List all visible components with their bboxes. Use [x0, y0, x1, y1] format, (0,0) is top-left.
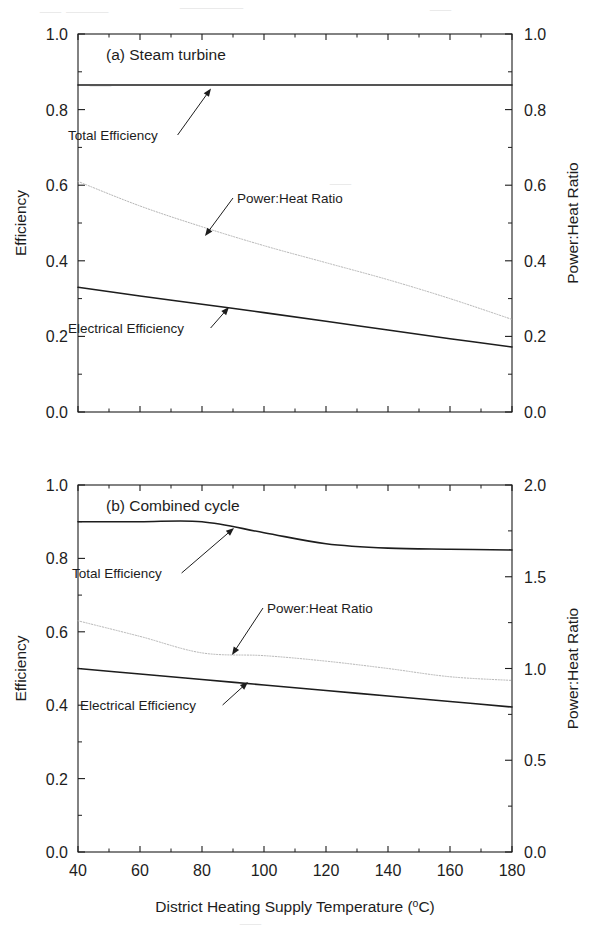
- scan-artifact-mark: —: [239, 911, 262, 935]
- annotation-label: Total Efficiency: [68, 128, 158, 143]
- right-axis-title: Power:Heat Ratio: [564, 162, 581, 283]
- y2-tick-label: 0.6: [524, 177, 546, 194]
- annotation-b-electrical: Electrical Efficiency: [80, 682, 248, 713]
- y2-tick-label: 1.5: [524, 569, 546, 586]
- y2-tick-label: 0.4: [524, 253, 546, 270]
- chart-canvas: 0.00.20.40.60.81.0Efficiency0.00.20.40.6…: [0, 0, 602, 949]
- y-tick-label: 1.0: [46, 26, 68, 43]
- annotation-leader: [235, 608, 263, 651]
- left-axis-title: Efficiency: [12, 190, 29, 256]
- right-axis: 0.00.20.40.60.81.0Power:Heat Ratio: [505, 26, 581, 421]
- x-axis-title-main: District Heating Supply Temperature (: [155, 898, 413, 915]
- annotation-leader: [182, 531, 231, 573]
- right-axis: 0.00.51.01.52.0Power:Heat Ratio: [505, 477, 581, 861]
- y-tick-label: 0.8: [46, 550, 68, 567]
- y-tick-label: 0.2: [46, 328, 68, 345]
- annotation-leader: [178, 93, 208, 135]
- annotation-arrowhead: [204, 89, 211, 97]
- y-tick-label: 0.4: [46, 253, 68, 270]
- annotation-arrowhead: [205, 228, 212, 236]
- x-axis: 406080100120140160180: [69, 485, 525, 879]
- panel-title: (b) Combined cycle: [106, 497, 240, 514]
- y-tick-label: 0.6: [46, 624, 68, 641]
- x-tick-label: 80: [193, 862, 211, 879]
- plot-frame: [78, 34, 512, 412]
- panel-title: (a) Steam turbine: [106, 46, 226, 63]
- annotation-leader: [208, 198, 233, 232]
- annotation-label: Electrical Efficiency: [80, 698, 196, 713]
- y2-tick-label: 0.0: [524, 844, 546, 861]
- annotation-b-total: Total Efficiency: [72, 528, 234, 581]
- scan-artifact-mark: ———: [179, 0, 244, 19]
- left-axis: 0.00.20.40.60.81.0Efficiency: [12, 477, 85, 861]
- y2-tick-label: 1.0: [524, 26, 546, 43]
- figure-root: 0.00.20.40.60.81.0Efficiency0.00.20.40.6…: [0, 0, 602, 949]
- x-axis: [78, 34, 512, 412]
- x-tick-label: 100: [251, 862, 278, 879]
- annotation-b-phr: Power:Heat Ratio: [232, 601, 373, 655]
- scan-artifact-mark: —: [429, 0, 452, 21]
- left-axis-title: Efficiency: [12, 635, 29, 701]
- series-line-power-heat-ratio: [78, 621, 512, 681]
- right-axis-title: Power:Heat Ratio: [564, 608, 581, 729]
- annotation-a-phr: Power:Heat Ratio: [205, 191, 343, 236]
- annotation-leader: [211, 311, 226, 328]
- x-tick-label: 160: [437, 862, 464, 879]
- y-tick-label: 1.0: [46, 477, 68, 494]
- plot-frame: [78, 485, 512, 852]
- annotation-a-electrical: Electrical Efficiency: [68, 307, 229, 336]
- x-tick-label: 140: [375, 862, 402, 879]
- left-axis: 0.00.20.40.60.81.0Efficiency: [12, 26, 85, 421]
- panel-b: 4060801001201401601800.00.20.40.60.81.0E…: [12, 477, 581, 879]
- annotation-leader: [223, 685, 245, 705]
- scan-artifact-mark: — ——: [39, 0, 109, 23]
- x-tick-label: 120: [313, 862, 340, 879]
- x-axis-title: District Heating Supply Temperature (oC): [155, 897, 435, 915]
- y2-tick-label: 0.0: [524, 404, 546, 421]
- y-tick-label: 0.0: [46, 404, 68, 421]
- x-axis-title-tail: C): [418, 898, 434, 915]
- annotation-label: Total Efficiency: [72, 566, 162, 581]
- y-tick-label: 0.8: [46, 102, 68, 119]
- y2-tick-label: 0.8: [524, 102, 546, 119]
- y-tick-label: 0.4: [46, 697, 68, 714]
- x-tick-label: 60: [131, 862, 149, 879]
- annotation-arrowhead: [232, 647, 239, 655]
- y2-tick-label: 1.0: [524, 661, 546, 678]
- y-tick-label: 0.2: [46, 771, 68, 788]
- annotation-label: Power:Heat Ratio: [237, 191, 343, 206]
- y-tick-label: 0.6: [46, 177, 68, 194]
- y2-tick-label: 2.0: [524, 477, 546, 494]
- scan-artifact-mark: —: [329, 171, 352, 195]
- y2-tick-label: 0.5: [524, 752, 546, 769]
- annotation-label: Power:Heat Ratio: [267, 601, 373, 616]
- y2-tick-label: 0.2: [524, 328, 546, 345]
- series-line-electrical-efficiency: [78, 287, 512, 347]
- series-line-total-efficiency: [78, 521, 512, 550]
- x-tick-label: 40: [69, 862, 87, 879]
- x-tick-label: 180: [499, 862, 526, 879]
- y-tick-label: 0.0: [46, 844, 68, 861]
- annotation-label: Electrical Efficiency: [68, 321, 184, 336]
- scan-artifact-mark: —: [89, 73, 112, 97]
